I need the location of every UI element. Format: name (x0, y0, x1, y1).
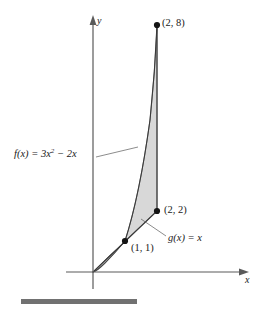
x-axis-label: x (245, 275, 249, 285)
point-label-1-1: (1, 1) (131, 243, 154, 254)
leader-line-f (96, 147, 138, 157)
point-marker-2-2 (154, 208, 160, 214)
point-marker-1-1 (122, 238, 128, 244)
figure-root: f(x) = 3x2 − 2x g(x) = x (2, 8) (2, 2) (… (0, 0, 272, 309)
function-label-f-tail: − 2x (54, 148, 76, 159)
function-label-g: g(x) = x (168, 233, 202, 244)
y-axis-label: y (97, 16, 101, 26)
leader-line-g (141, 219, 166, 236)
footer-rule (21, 299, 137, 304)
function-label-f-base: f(x) = 3x (14, 148, 51, 159)
point-marker-2-8 (154, 22, 160, 28)
function-label-f: f(x) = 3x2 − 2x (14, 149, 77, 160)
point-label-2-8: (2, 8) (162, 18, 185, 29)
point-label-2-2: (2, 2) (164, 205, 187, 216)
y-axis-arrowhead (90, 15, 97, 25)
shaded-main-region (125, 25, 157, 241)
